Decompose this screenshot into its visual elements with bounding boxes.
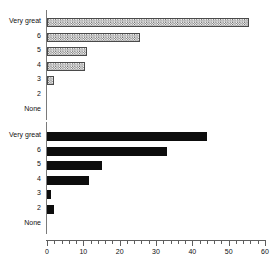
x-tick-minor	[214, 241, 215, 244]
bar	[47, 205, 54, 214]
x-tick-label: 20	[116, 248, 124, 256]
category-label: 3	[37, 75, 41, 83]
figure: Very great65432None Very great65432None …	[0, 0, 276, 261]
x-tick-major	[120, 241, 121, 246]
x-tick-minor	[98, 241, 99, 244]
plot-area-bottom	[47, 122, 265, 234]
x-tick-minor	[112, 241, 113, 244]
category-label: 4	[37, 175, 41, 183]
x-tick-minor	[76, 241, 77, 244]
category-label: None	[24, 105, 41, 113]
x-tick-minor	[236, 241, 237, 244]
bar	[47, 47, 87, 56]
x-tick-minor	[178, 241, 179, 244]
x-tick-minor	[250, 241, 251, 244]
x-tick-major	[229, 241, 230, 246]
category-label: 6	[37, 146, 41, 154]
bar	[47, 190, 51, 199]
category-label: 5	[37, 160, 41, 168]
category-label: 5	[37, 46, 41, 54]
x-tick-label: 40	[188, 248, 196, 256]
bar	[47, 76, 54, 85]
plot-area-top	[47, 8, 265, 120]
x-tick-major	[265, 241, 266, 246]
x-tick-minor	[127, 241, 128, 244]
x-tick-label: 30	[152, 248, 160, 256]
bar	[47, 176, 89, 185]
x-tick-minor	[243, 241, 244, 244]
x-tick-minor	[185, 241, 186, 244]
category-axis-bottom: Very great65432None	[0, 122, 44, 234]
bar	[47, 147, 167, 156]
bar	[47, 132, 207, 141]
category-label: 6	[37, 32, 41, 40]
x-tick-major	[47, 241, 48, 246]
bar	[47, 33, 140, 42]
x-tick-minor	[200, 241, 201, 244]
x-tick-minor	[258, 241, 259, 244]
x-tick-minor	[54, 241, 55, 244]
x-tick-minor	[105, 241, 106, 244]
x-tick-minor	[134, 241, 135, 244]
category-label: 3	[37, 189, 41, 197]
bar	[47, 62, 85, 71]
category-label: Very great	[9, 131, 41, 139]
x-tick-minor	[141, 241, 142, 244]
x-axis: 0102030405060	[0, 234, 276, 261]
x-tick-minor	[91, 241, 92, 244]
x-tick-minor	[163, 241, 164, 244]
x-tick-major	[156, 241, 157, 246]
bar	[47, 161, 102, 170]
category-label: None	[24, 219, 41, 227]
x-tick-minor	[69, 241, 70, 244]
x-tick-major	[83, 241, 84, 246]
category-axis-top: Very great65432None	[0, 8, 44, 120]
x-tick-minor	[171, 241, 172, 244]
x-tick-minor	[221, 241, 222, 244]
x-tick-label: 10	[79, 248, 87, 256]
x-tick-major	[192, 241, 193, 246]
chart-panel-top: Very great65432None	[0, 8, 276, 120]
x-tick-label: 0	[45, 248, 49, 256]
x-tick-minor	[149, 241, 150, 244]
category-label: 4	[37, 61, 41, 69]
x-tick-label: 50	[225, 248, 233, 256]
category-label: Very great	[9, 17, 41, 25]
category-label: 2	[37, 90, 41, 98]
x-tick-minor	[62, 241, 63, 244]
chart-panel-bottom: Very great65432None	[0, 122, 276, 234]
x-tick-minor	[207, 241, 208, 244]
bar	[47, 18, 249, 27]
x-tick-label: 60	[261, 248, 269, 256]
category-label: 2	[37, 204, 41, 212]
